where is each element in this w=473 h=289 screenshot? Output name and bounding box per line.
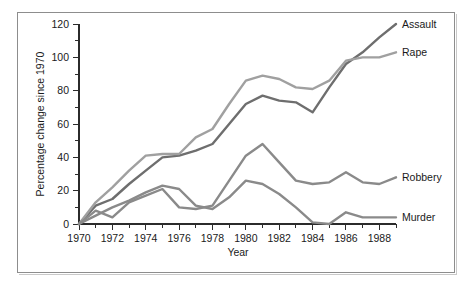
y-tick-label: 120 [51, 18, 69, 30]
series-line-rape [79, 52, 396, 224]
x-tick-label: 1982 [268, 232, 292, 244]
x-tick-label: 1980 [234, 232, 258, 244]
x-axis-ticks [79, 224, 396, 230]
x-tick-label: 1986 [334, 232, 358, 244]
y-tick-label: 100 [51, 51, 69, 63]
series-label-murder: Murder [402, 211, 436, 223]
x-tick-label: 1988 [368, 232, 392, 244]
series-line-assault [79, 24, 396, 224]
y-axis-group: 020406080100120 [51, 18, 79, 230]
series-label-rape: Rape [402, 46, 427, 58]
y-tick-label: 60 [57, 118, 69, 130]
figure-container: 020406080100120 197019721974197619781980… [0, 0, 473, 289]
y-tick-label: 40 [57, 151, 69, 163]
series-lines [79, 24, 396, 224]
y-axis-title: Percentage change since 1970 [34, 51, 46, 196]
series-inline-labels: AssaultRapeRobberyMurder [402, 18, 442, 223]
x-tick-label: 1976 [167, 232, 191, 244]
x-tick-label: 1978 [201, 232, 225, 244]
y-tick-label: 0 [63, 218, 69, 230]
x-tick-label: 1972 [101, 232, 125, 244]
series-label-robbery: Robbery [402, 171, 442, 183]
x-tick-label: 1970 [67, 232, 91, 244]
x-axis-group: 1970197219741976197819801982198419861988 [67, 224, 396, 244]
y-tick-label: 80 [57, 84, 69, 96]
series-label-assault: Assault [402, 18, 437, 30]
y-tick-label: 20 [57, 184, 69, 196]
x-tick-label: 1974 [134, 232, 158, 244]
x-axis-title: Year [227, 246, 249, 258]
y-axis-ticks [73, 24, 79, 224]
x-tick-label: 1984 [301, 232, 325, 244]
x-axis-tick-labels: 1970197219741976197819801982198419861988 [67, 232, 391, 244]
line-chart: 020406080100120 197019721974197619781980… [0, 0, 473, 289]
y-axis-tick-labels: 020406080100120 [51, 18, 69, 230]
